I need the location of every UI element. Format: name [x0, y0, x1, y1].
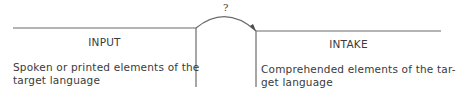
- intake-description-line2: get language: [261, 76, 333, 89]
- input-description-line2: target language: [13, 74, 100, 87]
- input-title: INPUT: [13, 36, 196, 48]
- transfer-arc: [196, 17, 256, 31]
- intake-description-line1: Comprehended elements of the tar-: [261, 63, 456, 76]
- input-description-line1: Spoken or printed elements of the: [13, 61, 200, 74]
- question-mark-label: ?: [223, 2, 228, 13]
- intake-title: INTAKE: [256, 38, 441, 50]
